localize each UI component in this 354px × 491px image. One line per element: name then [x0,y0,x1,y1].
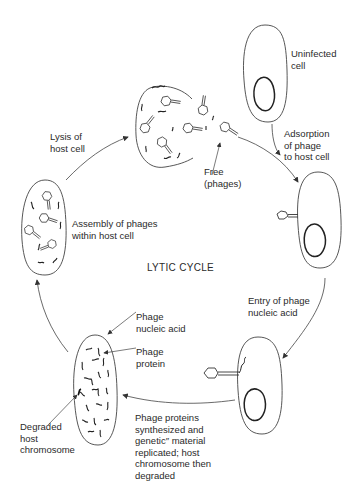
arrow-entry [283,278,325,358]
label-free-phages: Free (phages) [204,166,242,189]
lysed-cell [136,86,239,168]
replication-cell [74,335,118,445]
label-uninfected-cell: Uninfected cell [291,48,336,71]
diagram-title: LYTIC CYCLE [147,262,214,273]
label-entry: Entry of phage nucleic acid [248,295,310,318]
injecting-phage-icon [204,368,218,378]
attached-phage-icon [277,211,288,219]
uninfected-cell [243,25,287,122]
label-phage-protein: Phage protein [136,346,165,369]
label-adsorption: Adsorption of phage to host cell [284,128,329,163]
entry-cell [204,337,282,434]
label-synthesis: Phage proteins synthesized and genetic″ … [135,412,211,481]
label-lysis: Lysis of host cell [50,131,85,154]
arrow-synthesis [123,395,235,403]
adsorption-cell [277,172,341,268]
label-phage-nucleic-acid: Phage nucleic acid [136,311,186,334]
arrow-assembly [37,280,68,352]
label-degraded-host-chromosome: Degraded host chromosome [20,421,75,456]
arrow-adsorption [272,124,280,155]
assembly-cell [22,180,66,275]
label-assembly: Assembly of phages within host cell [72,218,158,241]
